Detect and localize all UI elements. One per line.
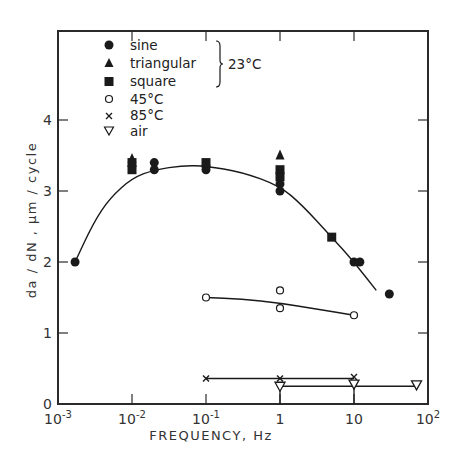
data-point-filled-square — [202, 158, 211, 167]
filled-triangle-icon — [105, 58, 114, 67]
data-point-filled-circle — [355, 258, 364, 267]
y-axis-ticks: 01234 — [43, 112, 428, 412]
y-tick-label: 2 — [43, 254, 52, 270]
y-tick-label: 0 — [43, 396, 52, 412]
legend-label: 85°C — [130, 107, 163, 123]
legend-label: air — [130, 123, 148, 139]
data-point-filled-triangle — [276, 150, 285, 160]
open-circle-icon — [106, 96, 113, 103]
x-tick-label: 102 — [416, 409, 440, 427]
data-point-open-down-triangle — [349, 380, 359, 389]
filled-circle-icon — [105, 41, 114, 50]
x-tick-label: 10 — [345, 411, 363, 427]
legend-label: square — [130, 73, 176, 89]
legend-item-45c: 45°C — [106, 91, 164, 107]
legend-label: 45°C — [130, 91, 163, 107]
data-point-open-circle — [203, 294, 210, 301]
legend-item-85c: 85°C — [106, 107, 163, 123]
data-point-filled-square — [128, 158, 137, 167]
y-tick-label: 1 — [43, 325, 52, 341]
x-axis-title: FREQUENCY, Hz — [149, 428, 273, 443]
legend-brace — [216, 41, 223, 87]
legend-item-sine: sine — [105, 37, 158, 53]
y-tick-label: 4 — [43, 112, 52, 128]
x-tick-label: 10-1 — [192, 409, 220, 427]
x-mark-icon — [106, 113, 112, 119]
legend: sine triangular square 45°C 85°C air 23°… — [105, 37, 262, 139]
y-axis-title: da / dN , µm / cycle — [24, 142, 39, 298]
x-tick-label: 1 — [276, 411, 285, 427]
data-point-filled-circle — [150, 165, 159, 174]
legend-label: sine — [130, 37, 158, 53]
fit-curves — [75, 166, 416, 387]
y-tick-label: 3 — [43, 183, 52, 199]
data-point-filled-circle — [385, 289, 394, 298]
data-point-filled-square — [327, 233, 336, 242]
x-tick-label: 10-3 — [44, 409, 72, 427]
filled-square-icon — [105, 77, 114, 86]
open-down-triangle-icon — [105, 127, 114, 135]
air-drop-lines — [280, 386, 354, 404]
legend-group-label: 23°C — [228, 56, 261, 72]
data-point-open-circle — [277, 305, 284, 312]
data-point-open-down-triangle — [412, 381, 422, 390]
legend-label: triangular — [130, 55, 197, 71]
legend-item-square: square — [105, 73, 177, 89]
chart: 01234 10-310-210-1110102 sine triangular… — [0, 0, 454, 470]
data-point-open-circle — [351, 312, 358, 319]
data-point-filled-square — [276, 172, 285, 181]
data-point-filled-circle — [71, 258, 80, 267]
data-point-open-circle — [277, 287, 284, 294]
x-tick-label: 10-2 — [118, 409, 146, 427]
x-axis-ticks: 10-310-210-1110102 — [44, 31, 440, 427]
plot-frame — [58, 31, 428, 404]
legend-item-air: air — [105, 123, 149, 139]
legend-item-triangular: triangular — [105, 55, 197, 71]
fit-curve — [75, 166, 376, 291]
